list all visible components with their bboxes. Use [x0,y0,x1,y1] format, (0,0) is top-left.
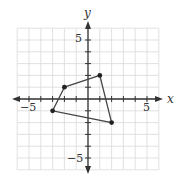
coordinate-plane: x y −5 5 5 −5 [0,0,182,179]
x-axis-label: x [167,92,174,106]
vertex-point [50,108,55,113]
vertex-point [109,120,114,125]
x-tick-label-neg5: −5 [20,101,36,114]
y-axis-label: y [83,6,91,20]
y-tick-label-pos5: 5 [75,32,82,45]
x-tick-label-pos5: 5 [143,101,150,114]
y-tick-label-neg5: −5 [67,152,83,165]
y-axis-arrow-up-icon [85,21,91,29]
x-axis-arrow-left-icon [12,96,20,102]
axes [12,21,163,174]
vertex-point [62,85,67,90]
vertex-point [97,73,102,78]
